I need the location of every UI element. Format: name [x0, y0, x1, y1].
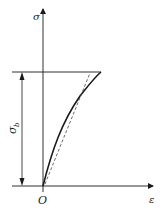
sigma-b-subscript: b [13, 122, 21, 127]
stress-strain-diagram: σ ε O σ b [0, 0, 163, 208]
stress-strain-curve [43, 72, 101, 186]
origin-label: O [38, 194, 47, 207]
y-axis-label: σ [33, 11, 41, 22]
sigma-b-label: σ b [6, 122, 21, 134]
dimension-arrow-bottom-icon [20, 178, 25, 186]
secant-line [45, 73, 90, 184]
dimension-arrow-top-icon [20, 72, 25, 80]
x-axis-label: ε [149, 194, 154, 205]
